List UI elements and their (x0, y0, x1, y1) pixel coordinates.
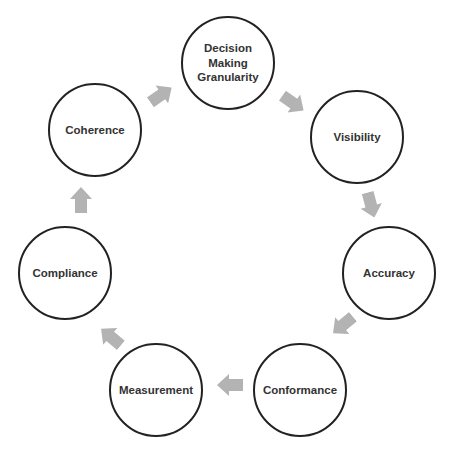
arrow-measurement-to-compliance-icon (94, 320, 128, 354)
node-label: Compliance (32, 266, 97, 281)
node-accuracy: Accuracy (342, 226, 436, 320)
node-measurement: Measurement (109, 343, 203, 437)
node-compliance: Compliance (18, 226, 112, 320)
node-coherence: Coherence (48, 83, 142, 177)
arrow-accuracy-to-conformance-icon (326, 308, 360, 342)
arrow-conformance-to-measurement-icon (217, 374, 243, 396)
arrow-visibility-to-accuracy-icon (357, 190, 385, 221)
node-decision-making-granularity: Decision Making Granularity (181, 16, 275, 110)
arrow-decision-to-visibility-icon (276, 87, 310, 120)
node-label: Accuracy (363, 266, 415, 281)
arrow-compliance-to-coherence-icon (70, 187, 92, 213)
node-label: Coherence (65, 123, 124, 138)
node-visibility: Visibility (310, 90, 404, 184)
arrow-coherence-to-decision-icon (144, 79, 178, 112)
node-label: Decision Making Granularity (197, 41, 258, 86)
node-label: Measurement (119, 383, 193, 398)
node-conformance: Conformance (253, 343, 347, 437)
node-label: Conformance (263, 383, 337, 398)
node-label: Visibility (333, 130, 380, 145)
